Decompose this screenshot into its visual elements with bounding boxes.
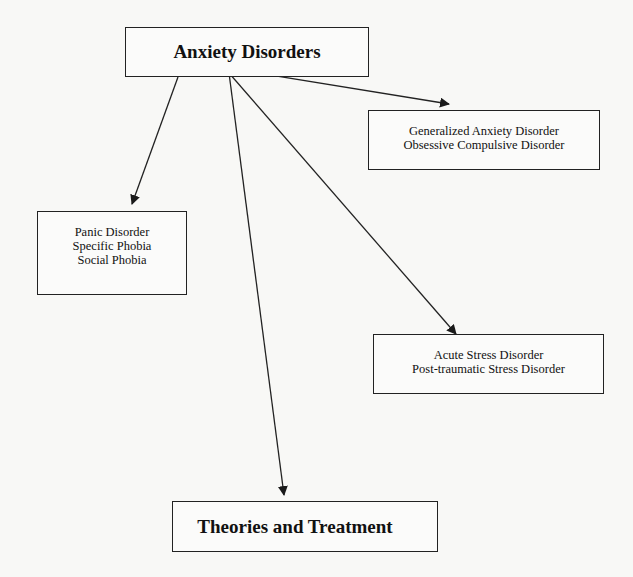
node-line: Specific Phobia [73, 239, 152, 253]
node-line: Social Phobia [77, 253, 146, 267]
node-line: Post-traumatic Stress Disorder [412, 362, 565, 376]
node-panic-phobias: Panic Disorder Specific Phobia Social Ph… [37, 211, 187, 295]
node-line: Obsessive Compulsive Disorder [403, 138, 564, 152]
node-title: Theories and Treatment [197, 516, 392, 538]
arrow-root-to-panic [132, 77, 178, 204]
node-line: Acute Stress Disorder [434, 348, 544, 362]
node-line: Generalized Anxiety Disorder [409, 124, 559, 138]
arrow-root-to-theories [229, 73, 284, 495]
diagram-canvas: Anxiety Disorders Generalized Anxiety Di… [0, 0, 633, 577]
node-line: Panic Disorder [75, 225, 150, 239]
node-anxiety-disorders: Anxiety Disorders [125, 27, 369, 77]
node-gad-ocd: Generalized Anxiety Disorder Obsessive C… [368, 110, 600, 170]
node-title: Anxiety Disorders [173, 41, 320, 63]
node-stress-disorders: Acute Stress Disorder Post-traumatic Str… [373, 334, 604, 394]
node-theories-treatment: Theories and Treatment [172, 501, 438, 552]
